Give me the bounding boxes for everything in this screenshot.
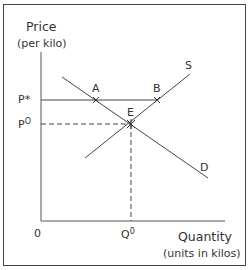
x-axis-subtitle: (units in kilos) [163, 248, 241, 259]
q-zero-base: Q [121, 228, 130, 241]
point-e-label: E [127, 107, 134, 118]
supply-curve [85, 74, 190, 158]
q-zero-sup: 0 [130, 227, 135, 236]
y-axis-subtitle: (per kilo) [17, 38, 67, 49]
demand-label: D [200, 162, 208, 173]
supply-label: S [185, 60, 192, 71]
p-zero-sup: O [25, 117, 31, 126]
p-zero-label: PO [18, 118, 31, 130]
q-zero-label: Q0 [121, 228, 135, 240]
point-b-label: B [153, 83, 161, 94]
p-star-label: P* [18, 94, 30, 105]
y-axis-title: Price [26, 21, 57, 34]
x-axis-title: Quantity [178, 231, 232, 244]
point-a-label: A [92, 83, 100, 94]
p-zero-base: P [18, 118, 25, 131]
origin-label: 0 [34, 228, 41, 239]
